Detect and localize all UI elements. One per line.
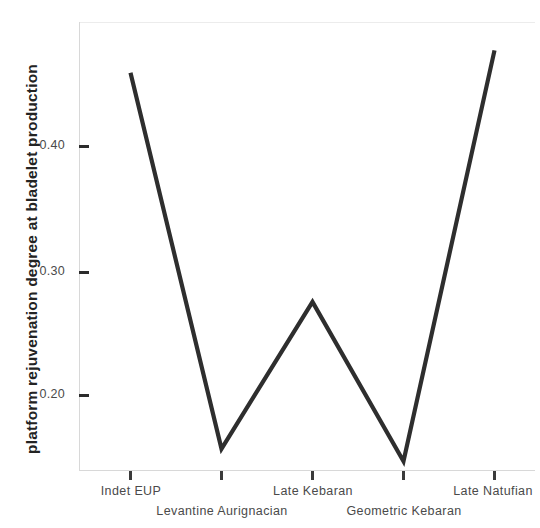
y-axis-title: platform rejuvenation degree at bladelet… <box>23 9 41 509</box>
x-tick-mark-0 <box>129 471 132 480</box>
x-tick-label-late-natufian: Late Natufian <box>453 484 533 498</box>
y-tick-mark-0 <box>79 145 89 148</box>
data-series-line <box>0 0 540 528</box>
y-tick-label-2: 0.20 <box>21 387 65 401</box>
y-tick-mark-1 <box>79 271 89 274</box>
x-tick-label-geometric-kebaran: Geometric Kebaran <box>346 504 461 518</box>
y-tick-label-1: 0.30 <box>21 264 65 278</box>
y-tick-label-0: 0.40 <box>21 138 65 152</box>
x-tick-label-levantine-aurignacian: Levantine Aurignacian <box>156 504 287 518</box>
x-tick-mark-3 <box>402 471 405 480</box>
x-axis-line <box>79 470 535 471</box>
x-tick-mark-4 <box>493 471 496 480</box>
plot-top-border <box>79 22 535 23</box>
x-tick-mark-1 <box>220 471 223 480</box>
x-tick-mark-2 <box>311 471 314 480</box>
x-tick-label-late-kebaran: Late Kebaran <box>273 484 353 498</box>
x-tick-label-indet-eup: Indet EUP <box>101 484 162 498</box>
y-axis-line <box>79 22 80 471</box>
chart-figure: platform rejuvenation degree at bladelet… <box>0 0 540 528</box>
y-tick-mark-2 <box>79 394 89 397</box>
